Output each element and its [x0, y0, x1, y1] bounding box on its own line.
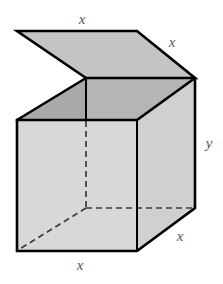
box-front-face — [17, 120, 137, 251]
label-base-width: x — [77, 258, 84, 273]
label-lid-depth: x — [169, 35, 176, 50]
label-top-width: x — [79, 12, 86, 27]
open-box-drawing — [0, 0, 223, 284]
label-base-depth: x — [177, 229, 184, 244]
label-box-height: y — [206, 136, 213, 151]
open-box-figure: x x y x x — [0, 0, 223, 284]
